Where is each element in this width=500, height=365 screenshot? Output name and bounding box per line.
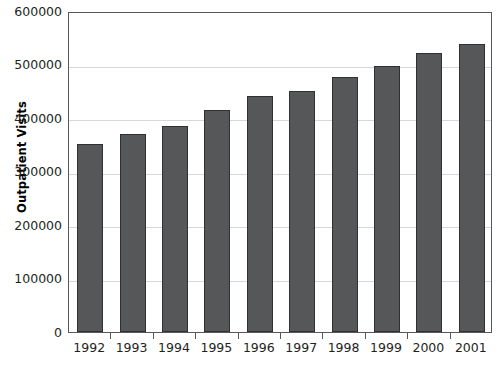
x-axis-tick [322, 333, 323, 339]
y-axis-tick-label: 100000 [4, 273, 62, 286]
x-axis-tick-label: 1998 [322, 342, 364, 355]
bar[interactable] [459, 44, 485, 332]
x-axis-tick-label: 1996 [238, 342, 280, 355]
x-axis-tick [110, 333, 111, 339]
x-axis-tick [407, 333, 408, 339]
plot-area [68, 12, 492, 333]
bar[interactable] [162, 126, 188, 332]
x-axis-tick-label: 1997 [280, 342, 322, 355]
y-axis-tick-label: 600000 [4, 6, 62, 19]
x-axis-tick [450, 333, 451, 339]
y-axis-tick-label: 400000 [4, 113, 62, 126]
y-axis-tick-label: 500000 [4, 59, 62, 72]
bar[interactable] [289, 91, 315, 332]
x-axis-tick-label: 2001 [450, 342, 492, 355]
bar[interactable] [247, 96, 273, 332]
y-axis-tick-label: 200000 [4, 220, 62, 233]
x-axis-tick [195, 333, 196, 339]
bar[interactable] [374, 66, 400, 332]
bar[interactable] [77, 144, 103, 332]
bars-layer [69, 13, 491, 332]
x-axis-tick-label: 2000 [407, 342, 449, 355]
x-axis-tick-label: 1999 [365, 342, 407, 355]
x-axis-tick [153, 333, 154, 339]
x-axis-tick-label: 1992 [68, 342, 110, 355]
x-axis-tick-label: 1994 [153, 342, 195, 355]
y-axis-tick-label: 300000 [4, 166, 62, 179]
bar-chart: Outpatient Visits 0100000200000300000400… [0, 0, 500, 365]
x-axis-tick-label: 1993 [110, 342, 152, 355]
bar[interactable] [416, 53, 442, 332]
x-axis-tick [238, 333, 239, 339]
y-axis-tick-labels: 0100000200000300000400000500000600000 [0, 0, 62, 365]
bar[interactable] [332, 77, 358, 332]
y-axis-tick-label: 0 [4, 327, 62, 340]
x-axis-tick [365, 333, 366, 339]
x-axis-tick [280, 333, 281, 339]
x-axis-tick-label: 1995 [195, 342, 237, 355]
bar[interactable] [204, 110, 230, 332]
bar[interactable] [120, 134, 146, 332]
